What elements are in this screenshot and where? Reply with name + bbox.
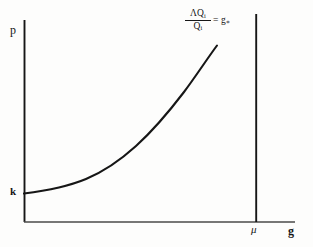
equals-text: = g [213,15,226,25]
fraction-numerator-text: ΛQ [190,8,204,18]
asymptote-label-mu: μ [251,224,257,235]
y-intercept-label-k: k [10,186,16,197]
fraction-denominator-text: Q [194,21,201,31]
fraction-numerator-subscript: i [204,12,206,19]
growth-rate-annotation: ΛQi Qi = g∗ [185,9,230,32]
economics-curve-figure: p g k μ ΛQi Qi = g∗ [0,0,313,247]
x-axis-label: g [288,225,294,237]
equals-expression: = g∗ [213,16,230,26]
exponential-curve [24,46,217,194]
fraction: ΛQi Qi [185,9,211,32]
fraction-denominator-subscript: i [201,24,203,31]
y-axis-label: p [10,24,16,36]
fraction-numerator: ΛQi [188,9,208,20]
fraction-denominator: Qi [192,21,205,32]
plot-canvas [0,0,313,247]
equals-subscript: ∗ [226,18,231,25]
